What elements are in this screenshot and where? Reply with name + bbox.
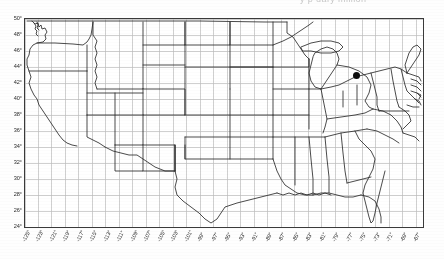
x-axis-tick-label: -81° [317,231,327,242]
y-axis-tick-label: 46° [14,47,22,53]
plot-area [24,18,424,228]
x-axis-tick-label: -101° [182,229,193,243]
y-axis-tick-label: 30° [14,175,22,181]
x-axis-tick-label: -113° [102,229,113,242]
x-axis-tick-label: -123° [34,229,45,243]
y-axis-tick-label: 38° [14,111,22,117]
y-axis-tick-label: 48° [14,31,22,37]
x-axis-tick-label: -109° [129,229,140,243]
x-axis-tick-label: -95° [223,231,233,242]
y-axis-tick-label: 44° [14,63,22,69]
x-axis-tick-label: -79° [331,231,341,242]
x-axis-tick-label: -115° [88,229,99,242]
x-axis-tick-label: -71° [385,231,395,242]
x-axis-tick-label: -91° [250,231,260,242]
x-axis-tick-label: -83° [304,231,314,242]
x-axis-tick-label: -69° [398,231,408,242]
x-axis-tick-label: -89° [263,231,273,242]
y-axis-tick-label: 24° [14,223,22,229]
x-axis-tick-label: -103° [169,229,180,243]
y-axis-tick-label: 34° [14,143,22,149]
x-axis-tick-label: -125° [21,229,32,243]
y-axis: 50°48°46°44°42°40°38°36°34°32°30°28°26°2… [0,18,22,228]
chart-canvas: y p uary million 50°48°46°44°42°40°38°36… [0,0,444,259]
y-axis-tick-label: 32° [14,159,22,165]
y-axis-tick-label: 42° [14,79,22,85]
x-axis-tick-label: -107° [142,229,153,243]
x-axis-tick-label: -97° [209,231,219,242]
y-axis-tick-label: 50° [14,15,22,21]
x-axis-tick-label: -85° [290,231,300,242]
x-axis-tick-label: -119° [61,229,72,242]
y-axis-tick-label: 40° [14,95,22,101]
x-axis-tick-label: -99° [196,231,206,242]
us-state-boundaries [25,19,423,227]
title-fragment: y p uary million [300,0,444,4]
x-axis-tick-label: -117° [75,229,86,242]
x-axis-tick-label: -87° [277,231,287,242]
y-axis-tick-label: 36° [14,127,22,133]
x-axis-tick-label: -75° [358,231,368,242]
x-axis: -125°-123°-121°-119°-117°-115°-113°-111°… [24,229,424,259]
data-point-marker [353,72,360,79]
x-axis-tick-label: -73° [371,231,381,242]
x-axis-tick-label: -93° [236,231,246,242]
x-axis-tick-label: -121° [48,229,59,243]
x-axis-tick-label: -111° [115,230,126,243]
x-axis-tick-label: -105° [156,229,167,243]
x-axis-tick-label: -77° [344,231,354,242]
y-axis-tick-label: 26° [14,207,22,213]
y-axis-tick-label: 28° [14,191,22,197]
x-axis-tick-label: -67° [412,231,422,242]
